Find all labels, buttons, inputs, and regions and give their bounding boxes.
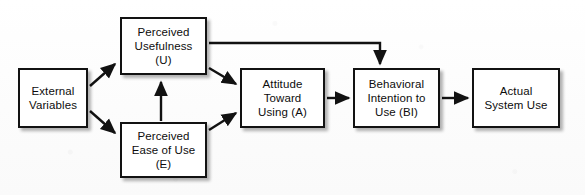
node-actual-system-use: Actual System Use — [472, 68, 560, 128]
edge-usefulness-to-intention — [209, 43, 380, 64]
node-perceived-ease-of-use: Perceived Ease of Use (E) — [120, 122, 207, 178]
edge-usefulness-to-attitude — [209, 68, 236, 84]
edge-ease-to-attitude — [209, 113, 236, 130]
diagram-canvas: External Variables Perceived Usefulness … — [0, 0, 585, 195]
edge-external-to-ease — [90, 111, 115, 133]
node-behavioral-intention: Behavioral Intention to Use (BI) — [353, 68, 440, 128]
node-perceived-usefulness: Perceived Usefulness (U) — [120, 17, 207, 75]
node-attitude-toward-using: Attitude Toward Using (A) — [240, 68, 325, 128]
node-external-variables: External Variables — [18, 68, 88, 128]
edge-external-to-usefulness — [90, 64, 115, 86]
